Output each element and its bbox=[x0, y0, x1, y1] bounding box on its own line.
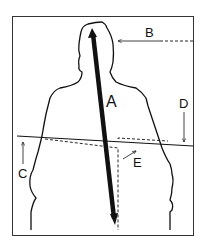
label-a: A bbox=[106, 93, 117, 110]
label-e: E bbox=[133, 155, 142, 170]
label-d: D bbox=[179, 96, 188, 111]
arrow-a-head-bottom bbox=[110, 213, 118, 225]
label-c: C bbox=[18, 166, 27, 181]
dashed-line-step bbox=[118, 138, 168, 141]
arrow-a-head-top bbox=[88, 28, 97, 38]
label-b: B bbox=[145, 25, 154, 40]
diagram: A B C D E bbox=[0, 0, 206, 248]
arrow-a bbox=[93, 34, 114, 218]
